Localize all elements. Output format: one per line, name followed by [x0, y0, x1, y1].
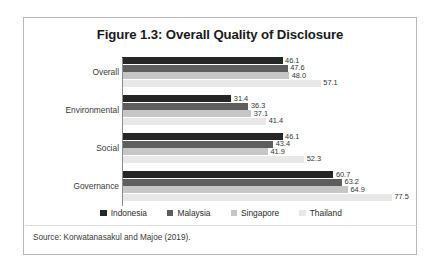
- figure-card: Figure 1.3: Overall Quality of Disclosur…: [23, 17, 417, 255]
- bar-row: 31.4: [122, 95, 418, 102]
- bar-row: 63.2: [122, 179, 418, 186]
- bars-container: 31.436.337.141.4: [122, 95, 418, 127]
- chart-title: Figure 1.3: Overall Quality of Disclosur…: [24, 27, 416, 42]
- bar-value-label: 31.4: [231, 94, 248, 103]
- bar-value-label: 41.9: [268, 147, 285, 156]
- bar-malaysia-overall[interactable]: [122, 65, 288, 72]
- bar-indonesia-environmental[interactable]: [122, 95, 231, 102]
- bar-singapore-social[interactable]: [122, 148, 268, 155]
- category-label-social: Social: [24, 143, 119, 153]
- bar-indonesia-governance[interactable]: [122, 171, 333, 178]
- bar-row: 64.9: [122, 186, 418, 193]
- bars-container: 46.147.648.057.1: [122, 57, 418, 89]
- bar-group: Governance60.763.264.977.5: [24, 168, 418, 206]
- legend-item-singapore[interactable]: Singapore: [231, 208, 280, 218]
- bar-singapore-governance[interactable]: [122, 186, 348, 193]
- legend-label: Thailand: [310, 208, 342, 218]
- footer-divider: [25, 225, 417, 226]
- bar-row: 46.1: [122, 133, 418, 140]
- legend-swatch-icon: [299, 210, 306, 217]
- legend-item-indonesia[interactable]: Indonesia: [100, 208, 147, 218]
- bars-container: 46.143.441.952.3: [122, 133, 418, 165]
- bar-singapore-overall[interactable]: [122, 72, 289, 79]
- legend-label: Indonesia: [111, 208, 147, 218]
- legend-swatch-icon: [167, 210, 174, 217]
- legend-item-malaysia[interactable]: Malaysia: [167, 208, 211, 218]
- bar-thailand-governance[interactable]: [122, 194, 392, 201]
- bar-value-label: 57.1: [321, 78, 338, 87]
- bar-row: 41.9: [122, 148, 418, 155]
- bar-row: 60.7: [122, 171, 418, 178]
- bar-row: 41.4: [122, 118, 418, 125]
- bar-singapore-environmental[interactable]: [122, 110, 251, 117]
- bar-row: 47.6: [122, 65, 418, 72]
- source-note: Source: Korwatanasakul and Majoe (2019).: [33, 233, 190, 242]
- legend-swatch-icon: [231, 210, 238, 217]
- chart-legend: IndonesiaMalaysiaSingaporeThailand: [24, 208, 418, 218]
- bar-value-label: 77.5: [392, 192, 409, 201]
- bar-value-label: 64.9: [348, 185, 365, 194]
- chart-plot-area: Overall46.147.648.057.1Environmental31.4…: [24, 54, 418, 206]
- value-axis-line: [122, 58, 123, 206]
- bar-malaysia-governance[interactable]: [122, 179, 342, 186]
- bar-value-label: 41.4: [266, 116, 283, 125]
- bar-thailand-social[interactable]: [122, 156, 304, 163]
- bar-indonesia-social[interactable]: [122, 133, 283, 140]
- category-label-governance: Governance: [24, 181, 119, 191]
- legend-label: Malaysia: [177, 208, 210, 218]
- bar-row: 48.0: [122, 72, 418, 79]
- bar-value-label: 52.3: [304, 154, 321, 163]
- legend-item-thailand[interactable]: Thailand: [299, 208, 342, 218]
- bars-container: 60.763.264.977.5: [122, 171, 418, 203]
- bar-malaysia-social[interactable]: [122, 141, 273, 148]
- bar-malaysia-environmental[interactable]: [122, 103, 248, 110]
- bar-group: Overall46.147.648.057.1: [24, 54, 418, 92]
- bar-group: Social46.143.441.952.3: [24, 130, 418, 168]
- bar-row: 57.1: [122, 80, 418, 87]
- bar-thailand-overall[interactable]: [122, 80, 321, 87]
- category-label-environmental: Environmental: [24, 105, 119, 115]
- bar-indonesia-overall[interactable]: [122, 57, 283, 64]
- legend-label: Singapore: [241, 208, 279, 218]
- bar-value-label: 48.0: [289, 71, 306, 80]
- legend-swatch-icon: [100, 210, 107, 217]
- category-label-overall: Overall: [24, 67, 119, 77]
- bar-thailand-environmental[interactable]: [122, 118, 266, 125]
- bar-row: 46.1: [122, 57, 418, 64]
- bar-row: 52.3: [122, 156, 418, 163]
- bar-row: 36.3: [122, 103, 418, 110]
- bar-row: 77.5: [122, 194, 418, 201]
- bar-group: Environmental31.436.337.141.4: [24, 92, 418, 130]
